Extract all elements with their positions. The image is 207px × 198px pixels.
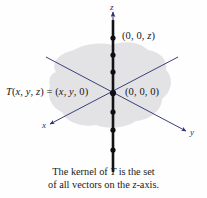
caption-line-1: The kernel of T is the set xyxy=(0,166,207,179)
point-label-on-z-axis: (0, 0, z) xyxy=(122,30,155,41)
figure-caption: The kernel of T is the set of all vector… xyxy=(0,166,207,191)
kernel-dot xyxy=(110,69,115,74)
kernel-dot xyxy=(110,52,115,57)
caption-line-2: of all vectors on the z-axis. xyxy=(0,179,207,192)
x-axis-label: x xyxy=(42,120,46,130)
kernel-dot-origin xyxy=(110,90,116,96)
kernel-of-transformation-figure: x y z (0, 0, z) (0, 0, 0) T(x, y, z) = (… xyxy=(0,0,207,198)
origin-label: (0, 0, 0) xyxy=(125,86,159,97)
y-axis-label: y xyxy=(190,127,194,137)
transformation-rule-label: T(x, y, z) = (x, y, 0) xyxy=(6,86,88,97)
kernel-dot xyxy=(110,109,115,114)
kernel-dot xyxy=(110,147,115,152)
kernel-dot xyxy=(110,35,115,40)
kernel-dot xyxy=(110,127,115,132)
z-axis-label: z xyxy=(110,2,114,12)
